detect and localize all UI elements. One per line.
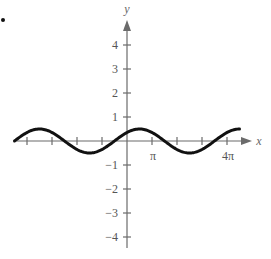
y-tick-label-neg2: −2: [105, 182, 118, 196]
y-axis-arrow-icon: [123, 20, 131, 31]
y-tick-label-neg4: −4: [105, 230, 118, 244]
y-tick-label-neg3: −3: [105, 206, 118, 220]
y-axis-label: y: [123, 2, 130, 16]
x-axis-arrow-icon: [241, 137, 252, 145]
y-tick-label-2: 2: [112, 86, 118, 100]
y-tick-label-1: 1: [112, 110, 118, 124]
item-bullet: [1, 18, 5, 22]
graph: π 4π x y 4 3 2 1 −1 −2 −3 −4: [0, 0, 271, 259]
x-tick-label-pi: π: [150, 149, 156, 163]
y-tick-label-neg1: −1: [105, 158, 118, 172]
x-tick-label-4pi: 4π: [222, 149, 234, 163]
y-tick-label-4: 4: [112, 38, 118, 52]
y-axis: y 4 3 2 1 −1 −2 −3 −4: [105, 2, 131, 248]
x-axis: π 4π x: [14, 134, 262, 163]
y-tick-label-3: 3: [112, 62, 118, 76]
x-axis-label: x: [255, 134, 262, 148]
